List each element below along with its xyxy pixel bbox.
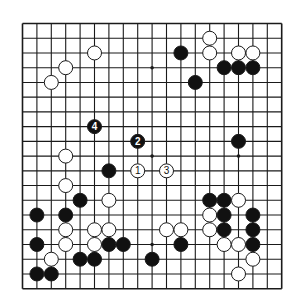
white-stone-disc (59, 223, 73, 237)
black-stone-disc (203, 193, 217, 207)
black-stone-disc (217, 61, 231, 75)
black-stone-disc (232, 134, 246, 148)
black-stone (232, 134, 246, 148)
black-stone-disc (232, 61, 246, 75)
black-stone-disc (145, 252, 159, 266)
black-stone (102, 238, 116, 252)
black-stone (217, 61, 231, 75)
black-stone: 4 (88, 120, 102, 134)
black-stone-disc (116, 238, 130, 252)
white-stone (102, 223, 116, 237)
white-stone-disc (59, 179, 73, 193)
white-stone (232, 46, 246, 60)
white-stone: 3 (160, 164, 174, 178)
white-stone-disc (102, 223, 116, 237)
white-stone (217, 238, 231, 252)
black-stone (30, 238, 44, 252)
white-stone-disc (232, 193, 246, 207)
white-stone (203, 223, 217, 237)
white-stone-disc (232, 267, 246, 281)
white-stone-disc (88, 223, 102, 237)
white-stone (232, 238, 246, 252)
go-board: 4213 (0, 0, 299, 307)
star-point (150, 154, 154, 158)
black-stone (217, 193, 231, 207)
black-stone-disc (174, 46, 188, 60)
white-stone-disc (203, 208, 217, 222)
white-stone-disc (102, 193, 116, 207)
white-stone (59, 238, 73, 252)
white-stone (246, 46, 260, 60)
white-stone: 1 (131, 164, 145, 178)
black-stone (88, 252, 102, 266)
black-stone-disc (102, 238, 116, 252)
black-stone-disc (246, 238, 260, 252)
black-stone-disc (217, 223, 231, 237)
white-stone (102, 193, 116, 207)
white-stone (174, 223, 188, 237)
white-stone-disc (59, 61, 73, 75)
black-stone-disc (88, 252, 102, 266)
white-stone (203, 208, 217, 222)
black-stone-disc (30, 208, 44, 222)
white-stone (160, 223, 174, 237)
white-stone-disc (44, 75, 58, 89)
white-stone-disc (246, 252, 260, 266)
star-point (150, 66, 154, 70)
star-point (150, 243, 154, 247)
black-stone (174, 46, 188, 60)
black-stone-disc (73, 252, 87, 266)
white-stone (88, 238, 102, 252)
black-stone (217, 208, 231, 222)
move-number-label: 1 (135, 165, 141, 176)
star-point (237, 154, 241, 158)
black-stone: 2 (131, 134, 145, 148)
black-stone (232, 61, 246, 75)
white-stone-disc (203, 46, 217, 60)
black-stone (73, 252, 87, 266)
white-stone-disc (203, 31, 217, 45)
white-stone-disc (232, 46, 246, 60)
black-stone (246, 238, 260, 252)
white-stone (44, 252, 58, 266)
black-stone (188, 75, 202, 89)
black-stone-disc (44, 267, 58, 281)
white-stone (232, 193, 246, 207)
black-stone-disc (174, 238, 188, 252)
black-stone (174, 238, 188, 252)
black-stone-disc (59, 208, 73, 222)
black-stone-disc (246, 223, 260, 237)
black-stone (102, 164, 116, 178)
black-stone-disc (246, 61, 260, 75)
white-stone-disc (246, 46, 260, 60)
black-stone (73, 193, 87, 207)
black-stone (246, 223, 260, 237)
black-stone-disc (102, 164, 116, 178)
white-stone-disc (160, 223, 174, 237)
white-stone (59, 61, 73, 75)
white-stone (44, 75, 58, 89)
move-number-label: 3 (164, 165, 170, 176)
white-stone (232, 267, 246, 281)
white-stone (59, 149, 73, 163)
black-stone (44, 267, 58, 281)
black-stone (59, 208, 73, 222)
white-stone-disc (203, 223, 217, 237)
black-stone-disc (30, 238, 44, 252)
black-stone (203, 193, 217, 207)
white-stone (88, 223, 102, 237)
black-stone (217, 223, 231, 237)
black-stone (30, 208, 44, 222)
move-number-label: 2 (135, 136, 141, 147)
white-stone (88, 46, 102, 60)
black-stone-disc (246, 208, 260, 222)
white-stone (203, 31, 217, 45)
white-stone-disc (232, 238, 246, 252)
white-stone-disc (59, 238, 73, 252)
white-stone-disc (44, 252, 58, 266)
black-stone (30, 267, 44, 281)
black-stone-disc (73, 193, 87, 207)
black-stone-disc (188, 75, 202, 89)
white-stone (59, 179, 73, 193)
white-stone-disc (59, 149, 73, 163)
